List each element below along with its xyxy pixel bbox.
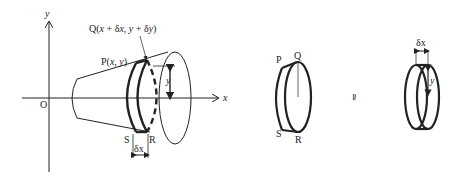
approx-symbol: ≃ — [349, 93, 360, 101]
cyl-label-y: y — [429, 75, 435, 86]
q-leader-line — [140, 36, 146, 58]
solid-of-revolution — [72, 36, 191, 158]
frustum-label-Q: Q — [294, 50, 302, 61]
label-S: S — [124, 134, 130, 145]
label-dx: δx — [134, 143, 144, 154]
cyl-label-dx: δx — [416, 37, 426, 48]
frustum-label-R: R — [295, 134, 302, 145]
label-radius-y: y — [165, 75, 171, 86]
label-Q-coords: Q(x + δx, y + δy) — [89, 23, 156, 35]
cylinder-slice — [405, 50, 439, 129]
volume-of-revolution-diagram: y x O Q(x + δx, y + δy) P(x, y) y S — [0, 0, 460, 178]
frustum-label-S: S — [276, 128, 282, 139]
y-axis-label: y — [44, 8, 50, 19]
label-R: R — [149, 134, 156, 145]
frustum-label-P: P — [276, 54, 282, 65]
bottom-generator — [77, 118, 150, 132]
label-P-coords: P(x, y) — [101, 56, 127, 68]
slice-right-face-front — [138, 60, 148, 132]
x-axis-label: x — [222, 92, 228, 103]
origin-label: O — [40, 99, 47, 110]
main-labels: Q(x + δx, y + δy) P(x, y) y S R δx — [89, 23, 171, 154]
slice-right-face-back — [147, 60, 157, 132]
frustum-left-face — [276, 68, 282, 130]
frustum-slice — [276, 62, 311, 132]
